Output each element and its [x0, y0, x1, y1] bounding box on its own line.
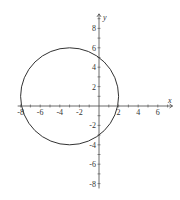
y-tick-label: 2: [92, 83, 96, 92]
y-tick-label: -6: [89, 160, 96, 169]
y-tick-label: 6: [92, 44, 96, 53]
y-tick-label: 8: [92, 24, 96, 33]
x-tick-label: -6: [37, 108, 44, 117]
y-tick-label: -2: [89, 121, 96, 130]
y-tick-label: -4: [89, 141, 96, 150]
y-axis-label: y: [102, 13, 107, 22]
x-tick-label: -2: [76, 108, 83, 117]
x-tick-label: 4: [136, 108, 140, 117]
x-tick-label: 6: [156, 108, 160, 117]
coordinate-plane: -8-6-4-22468642-2-4-6-8 x y: [0, 0, 180, 200]
x-tick-label: -4: [56, 108, 63, 117]
y-tick-label: -8: [89, 180, 96, 189]
x-axis-label: x: [167, 96, 172, 105]
y-tick-label: 4: [92, 63, 96, 72]
circle-curve: [21, 48, 119, 145]
curves: [21, 48, 119, 145]
